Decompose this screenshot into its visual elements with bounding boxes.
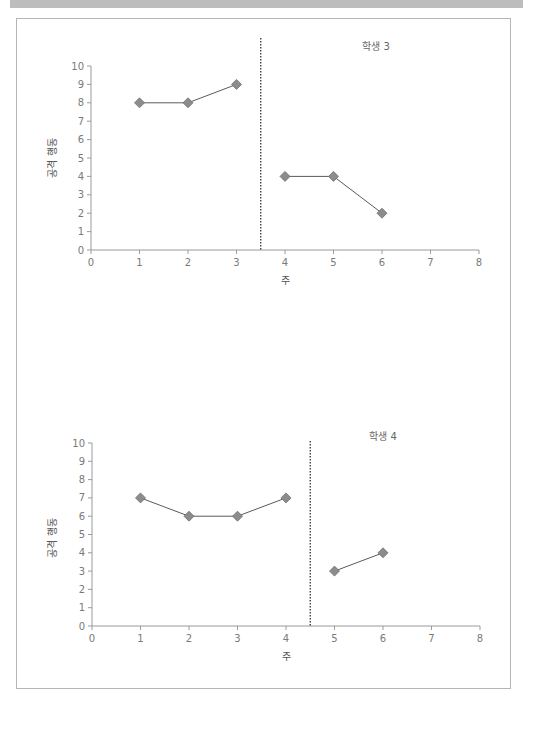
x-tick-label: 7 xyxy=(428,633,434,644)
diamond-marker xyxy=(184,511,194,521)
x-tick-label: 2 xyxy=(186,633,192,644)
y-tick-label: 6 xyxy=(79,511,85,522)
y-tick-label: 3 xyxy=(79,566,85,577)
x-tick-label: 3 xyxy=(234,633,240,644)
x-tick-label: 2 xyxy=(185,257,191,268)
y-tick-label: 6 xyxy=(78,134,84,145)
y-axis-title: 공격 행동 xyxy=(46,138,58,177)
x-tick-label: 1 xyxy=(136,257,142,268)
diamond-marker xyxy=(135,98,145,108)
x-tick-label: 7 xyxy=(427,257,433,268)
diamond-marker xyxy=(136,493,146,503)
y-axis-title: 공격 행동 xyxy=(46,518,58,557)
x-tick-label: 6 xyxy=(379,257,385,268)
y-tick-label: 2 xyxy=(79,584,85,595)
diamond-marker xyxy=(280,171,290,181)
y-tick-label: 9 xyxy=(79,456,85,467)
chart-title: 학생 4 xyxy=(369,431,397,442)
diamond-marker xyxy=(329,171,339,181)
x-tick-label: 1 xyxy=(137,633,143,644)
x-tick-label: 6 xyxy=(380,633,386,644)
series-line-intervention xyxy=(335,553,384,571)
y-tick-label: 10 xyxy=(72,438,85,449)
y-tick-label: 5 xyxy=(79,529,85,540)
diamond-marker xyxy=(330,566,340,576)
x-tick-label: 5 xyxy=(330,257,336,268)
y-tick-label: 5 xyxy=(78,153,84,164)
chart-title: 학생 3 xyxy=(362,41,390,52)
x-tick-label: 0 xyxy=(89,633,95,644)
y-tick-label: 0 xyxy=(79,621,85,632)
y-tick-label: 4 xyxy=(79,547,85,558)
x-axis-title: 주 xyxy=(281,275,290,286)
x-tick-label: 5 xyxy=(331,633,337,644)
series-line-baseline xyxy=(141,498,287,516)
y-tick-label: 4 xyxy=(78,171,84,182)
diamond-marker xyxy=(378,548,388,558)
diamond-marker xyxy=(377,208,387,218)
y-tick-label: 7 xyxy=(79,492,85,503)
x-axis-title: 주 xyxy=(282,651,291,662)
x-tick-label: 0 xyxy=(88,257,94,268)
chart-student-3: 012345678910012345678학생 3주공격 행동012345678… xyxy=(0,0,533,729)
diamond-marker xyxy=(232,79,242,89)
x-tick-label: 8 xyxy=(476,257,482,268)
chart-2: 012345678910012345678학생 4주공격 행동 xyxy=(46,431,483,662)
y-tick-label: 10 xyxy=(71,61,84,72)
y-tick-label: 9 xyxy=(78,79,84,90)
y-tick-label: 7 xyxy=(78,116,84,127)
y-tick-label: 8 xyxy=(79,474,85,485)
x-tick-label: 8 xyxy=(477,633,483,644)
y-tick-label: 1 xyxy=(78,226,84,237)
diamond-marker xyxy=(281,493,291,503)
diamond-marker xyxy=(233,511,243,521)
y-tick-label: 3 xyxy=(78,189,84,200)
y-tick-label: 2 xyxy=(78,208,84,219)
y-tick-label: 1 xyxy=(79,602,85,613)
x-tick-label: 3 xyxy=(233,257,239,268)
x-tick-label: 4 xyxy=(282,257,288,268)
chart-1: 012345678910012345678학생 3주공격 행동 xyxy=(46,38,482,286)
y-tick-label: 8 xyxy=(78,97,84,108)
x-tick-label: 4 xyxy=(283,633,289,644)
y-tick-label: 0 xyxy=(78,245,84,256)
diamond-marker xyxy=(183,98,193,108)
